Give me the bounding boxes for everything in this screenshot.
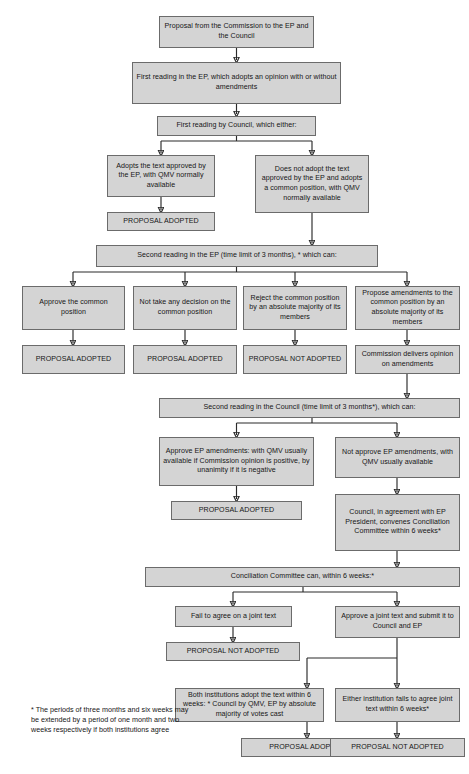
node-proposal-from-commission[interactable]: Proposal from the Commission to the EP a… [159,16,314,48]
node-proposal-adopted-4[interactable]: PROPOSAL ADOPTED [171,501,302,520]
node-approve-common-position[interactable]: Approve the common position [22,286,125,330]
node-label: Proposal from the Commission to the EP a… [163,22,310,41]
node-label: PROPOSAL NOT ADOPTED [170,647,296,657]
node-conciliation-committee[interactable]: Conciliation Committee can, within 6 wee… [145,567,460,587]
node-label: PROPOSAL NOT ADOPTED [247,355,343,365]
node-either-institution-fails[interactable]: Either institution fails to agree joint … [335,688,460,722]
node-approve-ep-amendments[interactable]: Approve EP amendments: with QMV usually … [159,437,314,486]
node-label: Second reading in the EP (time limit of … [100,251,374,261]
node-label: PROPOSAL ADOPTED [137,355,233,365]
node-second-reading-council[interactable]: Second reading in the Council (time limi… [159,398,460,418]
node-label: Not take any decision on the common posi… [137,298,233,317]
node-proposal-adopted-3[interactable]: PROPOSAL ADOPTED [133,345,237,374]
node-label: PROPOSAL ADOPTED [175,506,298,516]
node-label: Fail to agree on a joint text [179,612,288,622]
node-label: Not approve EP amendments, with QMV usua… [339,448,456,467]
node-reject-common-position[interactable]: Reject the common position by an absolut… [243,286,347,330]
node-label: Approve EP amendments: with QMV usually … [163,447,310,476]
node-label: Approve a joint text and submit it to Co… [339,612,456,631]
footnote-text: * The periods of three months and six we… [31,705,191,736]
node-commission-delivers-opinion[interactable]: Commission delivers opinion on amendment… [355,345,460,374]
node-council-adopts-text[interactable]: Adopts the text approved by the EP, with… [107,155,215,197]
node-proposal-adopted-1[interactable]: PROPOSAL ADOPTED [107,212,215,231]
node-label: PROPOSAL NOT ADOPTED [334,743,461,753]
node-proposal-adopted-2[interactable]: PROPOSAL ADOPTED [22,345,125,374]
node-label: Approve the common position [26,298,121,317]
node-council-convenes-conciliation[interactable]: Council, in agreement with EP President,… [335,494,460,551]
node-label: Either institution fails to agree joint … [339,695,456,714]
node-label: Commission delivers opinion on amendment… [359,350,456,369]
flowchart-canvas: Proposal from the Commission to the EP a… [0,0,469,774]
node-propose-amendments[interactable]: Propose amendments to the common positio… [355,286,460,330]
node-label: First reading in the EP, which adopts an… [136,73,337,92]
node-first-reading-council[interactable]: First reading by Council, which either: [157,116,316,136]
node-label: PROPOSAL ADOPTED [111,217,211,227]
node-approve-joint-text[interactable]: Approve a joint text and submit it to Co… [335,606,460,638]
node-label: First reading by Council, which either: [161,121,312,131]
node-second-reading-ep[interactable]: Second reading in the EP (time limit of … [96,245,378,267]
node-both-institutions-adopt[interactable]: Both institutions adopt the text within … [175,688,324,722]
node-proposal-not-adopted-1[interactable]: PROPOSAL NOT ADOPTED [243,345,347,374]
node-label: Second reading in the Council (time limi… [163,403,456,413]
node-label: Propose amendments to the common positio… [359,289,456,327]
node-proposal-not-adopted-2[interactable]: PROPOSAL NOT ADOPTED [166,642,300,661]
node-label: PROPOSAL ADOPTED [26,355,121,365]
node-label: Conciliation Committee can, within 6 wee… [149,572,456,582]
node-label: Council, in agreement with EP President,… [339,508,456,537]
node-label: Reject the common position by an absolut… [247,294,343,323]
node-fail-to-agree-joint-text[interactable]: Fail to agree on a joint text [175,606,292,627]
node-label: Both institutions adopt the text within … [179,691,320,720]
node-label: Adopts the text approved by the EP, with… [111,162,211,191]
node-label: Does not adopt the text approved by the … [259,165,365,203]
node-first-reading-ep[interactable]: First reading in the EP, which adopts an… [132,62,341,104]
node-council-does-not-adopt[interactable]: Does not adopt the text approved by the … [255,155,369,213]
node-proposal-not-adopted-3[interactable]: PROPOSAL NOT ADOPTED [330,738,465,757]
node-no-decision-common-position[interactable]: Not take any decision on the common posi… [133,286,237,330]
node-not-approve-ep-amendments[interactable]: Not approve EP amendments, with QMV usua… [335,437,460,478]
